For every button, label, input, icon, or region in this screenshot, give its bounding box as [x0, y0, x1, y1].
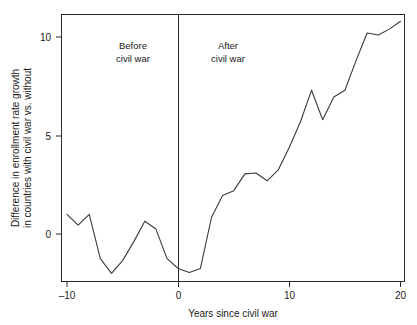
y-axis-title-line2: in countries with civil war vs. without [22, 68, 33, 228]
annotation-before-line1: Before [119, 40, 147, 51]
x-tick-label-10: 10 [284, 290, 296, 301]
y-tick-label-0: 0 [45, 229, 51, 240]
x-tick-label-20: 20 [395, 290, 407, 301]
annotation-after-civil-war: After civil war [211, 40, 245, 64]
annotation-after-line1: After [218, 40, 238, 51]
annotation-after-line2: civil war [211, 53, 245, 64]
y-axis-tick-labels: 10 5 0 [40, 32, 52, 240]
chart-figure: 10 5 0 –10 0 10 20 Years since civil war… [0, 0, 417, 325]
annotation-before-civil-war: Before civil war [116, 40, 150, 64]
x-axis-ticks [67, 282, 401, 288]
y-tick-label-10: 10 [40, 32, 52, 43]
x-axis-tick-labels: –10 0 10 20 [59, 290, 407, 301]
x-tick-label-minus10: –10 [59, 290, 76, 301]
x-axis-title: Years since civil war [188, 308, 278, 319]
annotation-before-line2: civil war [116, 53, 150, 64]
y-axis-ticks [56, 37, 62, 234]
x-tick-label-0: 0 [176, 290, 182, 301]
y-tick-label-5: 5 [45, 131, 51, 142]
y-axis-title-line1: Difference in enrollment rate growth [10, 69, 21, 227]
